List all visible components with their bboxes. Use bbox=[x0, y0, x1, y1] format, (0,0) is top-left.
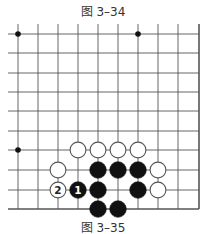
star-point bbox=[135, 31, 141, 37]
black-stone bbox=[110, 162, 127, 179]
black-stone bbox=[90, 182, 107, 199]
white-stone bbox=[110, 142, 126, 158]
white-stone bbox=[130, 142, 146, 158]
figure-caption-bottom: 图 3–35 bbox=[0, 218, 206, 234]
black-stone: 1 bbox=[70, 182, 87, 199]
black-stone bbox=[90, 162, 107, 179]
move-number: 1 bbox=[74, 184, 81, 196]
stones: 21 bbox=[50, 142, 166, 217]
board-grid bbox=[8, 24, 199, 209]
star-point bbox=[15, 147, 21, 153]
black-stone bbox=[130, 182, 147, 199]
white-stone bbox=[70, 142, 86, 158]
white-stone bbox=[50, 162, 66, 178]
black-stone bbox=[130, 162, 147, 179]
white-stone bbox=[150, 162, 166, 178]
move-number: 2 bbox=[54, 184, 61, 196]
white-stone: 2 bbox=[50, 182, 66, 198]
black-stone bbox=[90, 201, 107, 218]
white-stone bbox=[150, 182, 166, 198]
white-stone bbox=[90, 142, 106, 158]
go-board: 21 bbox=[0, 0, 206, 234]
star-point bbox=[15, 31, 21, 37]
black-stone bbox=[110, 201, 127, 218]
